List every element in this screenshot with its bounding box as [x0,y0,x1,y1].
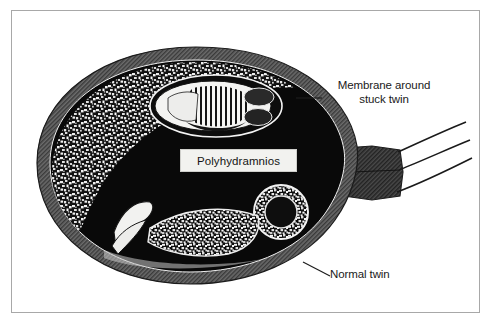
cord-line-3 [397,158,472,192]
label-normal-twin: Normal twin [330,268,450,282]
cord-line-2 [399,140,470,170]
cord-line-1 [398,122,466,152]
label-polyhydramnios: Polyhydramnios [180,149,297,172]
stuck-twin-group [150,75,282,137]
leader-line-normal-twin [303,262,330,276]
cervix-group [344,122,472,200]
figure-root: Membrane around stuck twin Normal twin P… [0,0,493,325]
label-membrane-around-stuck-twin: Membrane around stuck twin [325,79,443,106]
stuck-twin-organ-upper [244,88,274,106]
normal-twin-cranium [265,196,297,228]
stuck-twin-organ-lower [244,109,272,126]
